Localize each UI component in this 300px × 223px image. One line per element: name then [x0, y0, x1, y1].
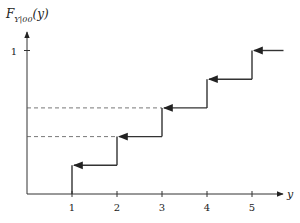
- cdf-steps: [72, 51, 284, 195]
- y-tick-label: 1: [11, 46, 17, 57]
- x-axis-label: y: [286, 188, 294, 201]
- step-cdf-chart: FY|00(y) y 123451: [0, 0, 300, 223]
- x-tick-label: 2: [114, 202, 120, 213]
- x-tick-label: 5: [249, 202, 255, 213]
- x-tick-label: 1: [69, 202, 75, 213]
- axis-ticks: 123451: [11, 46, 256, 214]
- x-tick-label: 3: [159, 202, 165, 213]
- dashed-reference-lines: [27, 108, 162, 137]
- y-axis-label: FY|00(y): [5, 7, 49, 24]
- x-tick-label: 4: [204, 202, 210, 213]
